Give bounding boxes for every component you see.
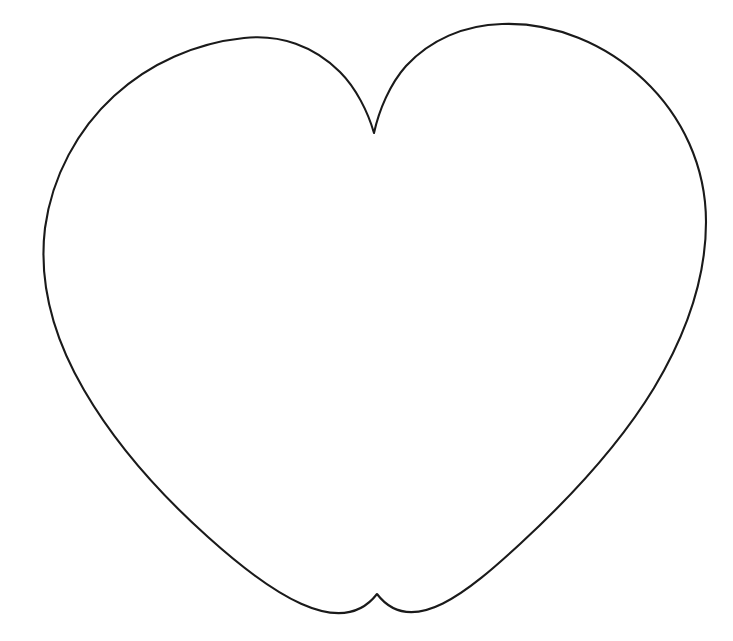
drawing-canvas: Heart Outline Template: [0, 0, 733, 641]
canvas-background: [0, 0, 733, 641]
heart-outline-figure: Heart Outline Template: [0, 0, 733, 641]
